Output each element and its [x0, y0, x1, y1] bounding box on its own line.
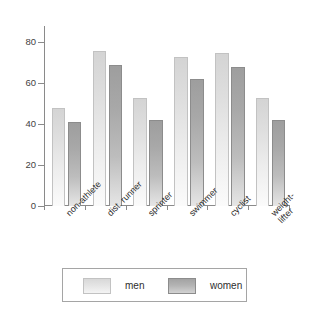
women-swatch-icon — [168, 278, 196, 294]
bar-women-0 — [68, 122, 82, 206]
chart-legend: men women — [62, 268, 247, 302]
y-tick-label: 20 — [0, 160, 36, 170]
bar-men-4 — [215, 53, 229, 206]
bar-women-4 — [231, 67, 245, 206]
men-swatch-icon — [83, 278, 111, 294]
bar-chart-figure: 020406080 non-athletedist. runnersprinte… — [0, 0, 309, 315]
y-tick-label: 40 — [0, 119, 36, 129]
y-tick-label: 0 — [0, 201, 36, 211]
legend-item-women: women — [168, 277, 242, 294]
bar-women-5 — [272, 120, 286, 206]
bar-women-2 — [149, 120, 163, 206]
y-tick-label: 60 — [0, 78, 36, 88]
bar-men-0 — [52, 108, 66, 206]
bar-women-3 — [190, 79, 204, 206]
legend-label-men: men — [125, 281, 144, 291]
bar-women-1 — [109, 65, 123, 206]
legend-label-women: women — [210, 281, 242, 291]
bar-men-5 — [256, 98, 270, 206]
bar-men-3 — [174, 57, 188, 206]
legend-item-men: men — [83, 277, 144, 294]
y-tick-label: 80 — [0, 37, 36, 47]
plot-area — [44, 26, 289, 206]
